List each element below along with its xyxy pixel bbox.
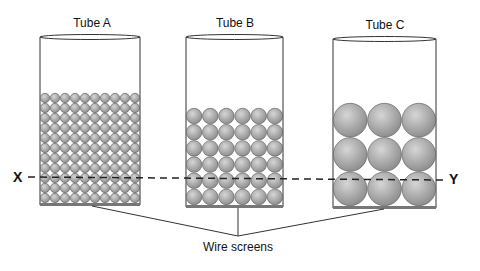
- y-label: Y: [449, 171, 459, 187]
- particle: [80, 103, 89, 112]
- particle: [130, 103, 139, 112]
- tube-c: [333, 37, 436, 210]
- particle: [251, 141, 267, 157]
- particle: [70, 123, 79, 132]
- particle: [80, 123, 89, 132]
- particle: [60, 103, 69, 112]
- particle: [267, 141, 283, 157]
- particle: [80, 163, 89, 172]
- particle: [90, 123, 99, 132]
- particle: [219, 141, 235, 157]
- particle: [368, 138, 402, 172]
- particle: [130, 163, 139, 172]
- particle: [120, 133, 129, 142]
- particle: [186, 108, 202, 124]
- particle: [40, 133, 49, 142]
- particle: [267, 124, 283, 140]
- tube-b-label: Tube B: [216, 16, 254, 30]
- particle: [80, 133, 89, 142]
- particle: [100, 163, 109, 172]
- particle: [130, 143, 139, 152]
- particle: [130, 133, 139, 142]
- particle: [100, 183, 109, 192]
- particle: [120, 163, 129, 172]
- particle: [60, 123, 69, 132]
- particle: [100, 133, 109, 142]
- tube-a-label: Tube A: [73, 16, 111, 30]
- particle: [70, 133, 79, 142]
- particle: [110, 193, 119, 202]
- particle: [50, 193, 59, 202]
- particle: [120, 153, 129, 162]
- particle: [50, 113, 59, 122]
- particle: [402, 103, 436, 137]
- particle: [251, 173, 267, 189]
- particle: [251, 157, 267, 173]
- particle: [100, 143, 109, 152]
- particle: [235, 124, 251, 140]
- wire-screens-label: Wire screens: [203, 240, 273, 254]
- particle: [50, 173, 59, 182]
- particle: [110, 183, 119, 192]
- particle: [100, 93, 109, 102]
- particle: [202, 173, 218, 189]
- particle: [60, 163, 69, 172]
- particle: [202, 108, 218, 124]
- particle: [40, 93, 49, 102]
- particle: [368, 103, 402, 137]
- particle: [70, 193, 79, 202]
- tube-a-wire-screen: [40, 203, 140, 206]
- particle: [40, 153, 49, 162]
- particle: [60, 133, 69, 142]
- particle: [267, 173, 283, 189]
- particle: [219, 124, 235, 140]
- particle: [80, 153, 89, 162]
- particle: [235, 141, 251, 157]
- particle: [186, 141, 202, 157]
- particle: [40, 103, 49, 112]
- particle: [186, 124, 202, 140]
- particle: [60, 143, 69, 152]
- diagram-canvas: Tube A Tube B Tube C X Y Wire screens: [0, 0, 480, 271]
- particle: [333, 172, 367, 206]
- particle: [70, 93, 79, 102]
- particle: [70, 153, 79, 162]
- particle: [80, 93, 89, 102]
- particle: [80, 183, 89, 192]
- particle: [235, 108, 251, 124]
- particle: [186, 173, 202, 189]
- particle: [120, 183, 129, 192]
- tube-b-wire-screen: [186, 205, 283, 208]
- tube-c-label: Tube C: [366, 18, 405, 32]
- particle: [267, 108, 283, 124]
- particle: [120, 103, 129, 112]
- particle: [219, 189, 235, 205]
- particle: [267, 189, 283, 205]
- particle: [120, 93, 129, 102]
- particle: [40, 143, 49, 152]
- particle: [70, 183, 79, 192]
- particle: [120, 193, 129, 202]
- particle: [110, 93, 119, 102]
- particle: [186, 157, 202, 173]
- particle: [267, 157, 283, 173]
- particle: [110, 153, 119, 162]
- particle: [130, 193, 139, 202]
- particle: [130, 113, 139, 122]
- particle: [235, 189, 251, 205]
- tube-a-particles: [40, 93, 139, 202]
- particle: [40, 193, 49, 202]
- particle: [60, 93, 69, 102]
- particle: [80, 143, 89, 152]
- particle: [202, 189, 218, 205]
- particle: [90, 183, 99, 192]
- particle: [90, 113, 99, 122]
- particle: [50, 103, 59, 112]
- particle: [80, 193, 89, 202]
- particle: [202, 124, 218, 140]
- particle: [202, 141, 218, 157]
- particle: [251, 124, 267, 140]
- particle: [251, 108, 267, 124]
- particle: [60, 113, 69, 122]
- tube-b-particles: [186, 108, 282, 204]
